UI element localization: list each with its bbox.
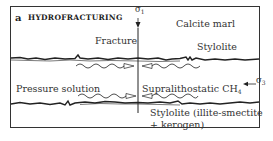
upper-right-flow-arrow-icon	[152, 64, 200, 68]
upper-left-flow-arrow-icon	[76, 64, 124, 68]
calcite-marl-label: Calcite marl	[176, 19, 235, 29]
supralithostatic-ch4-label: Supralithostatic CH4	[142, 84, 242, 95]
stylolite-lower-label-line1: Stylolite (illite-smectite	[150, 108, 263, 118]
panel-title: HYDROFRACTURING	[28, 13, 123, 22]
sigma3-label: σ3	[256, 76, 266, 86]
stylolite-lower-label-line2: + kerogen)	[150, 120, 204, 130]
sigma1-label: σ1	[135, 5, 145, 15]
stylolite-upper-label: Stylolite	[197, 42, 237, 52]
lower-stylolite-line	[11, 101, 259, 105]
lower-left-flow-arrow-icon	[78, 94, 126, 98]
panel-letter: a	[15, 12, 21, 23]
fracture-label: Fracture	[95, 36, 137, 46]
upper-stylolite-line	[11, 55, 259, 60]
pressure-solution-label: Pressure solution	[16, 84, 100, 94]
